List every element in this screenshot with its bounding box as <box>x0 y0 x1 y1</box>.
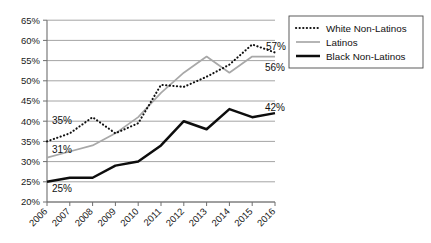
x-tick-label: 2008 <box>72 206 95 229</box>
label-black-end: 42% <box>265 102 285 113</box>
gridlines <box>47 20 275 202</box>
label-white-start: 35% <box>52 115 72 126</box>
x-tick-label: 2009 <box>95 206 118 229</box>
x-tick-label: 2012 <box>163 206 186 229</box>
chart-svg: 65% 60% 55% 50% 45% 40% 35% 30% 25% 20% <box>0 0 431 243</box>
x-tick-label: 2013 <box>186 206 209 229</box>
y-tick-label: 25% <box>21 176 41 187</box>
x-tick-label: 2016 <box>255 206 278 229</box>
y-tick-label: 40% <box>21 116 41 127</box>
x-tickmarks <box>47 202 275 206</box>
label-latinos-start: 31% <box>52 144 72 155</box>
legend-label-white-non-latinos: White Non-Latinos <box>326 23 407 34</box>
y-tick-label: 50% <box>21 75 41 86</box>
series-line-latinos <box>47 57 275 158</box>
x-axis-labels: 2006 2007 2008 2009 2010 2011 2012 2013 … <box>27 206 278 229</box>
y-tick-label: 30% <box>21 156 41 167</box>
legend-label-latinos: Latinos <box>326 37 358 48</box>
x-tick-label: 2006 <box>27 206 50 229</box>
label-latinos-end: 56% <box>265 62 285 73</box>
x-tick-label: 2014 <box>209 206 232 229</box>
legend-label-black-non-latinos: Black Non-Latinos <box>326 51 406 62</box>
x-tick-label: 2007 <box>49 206 72 229</box>
y-tickmarks <box>43 20 47 202</box>
legend: White Non-Latinos Latinos Black Non-Lati… <box>289 16 423 68</box>
y-tick-label: 65% <box>21 15 41 26</box>
line-chart: 65% 60% 55% 50% 45% 40% 35% 30% 25% 20% <box>0 0 431 243</box>
series-line-black-non-latinos <box>47 109 275 182</box>
x-tick-label: 2011 <box>141 206 163 228</box>
y-axis-labels: 65% 60% 55% 50% 45% 40% 35% 30% 25% 20% <box>21 15 41 208</box>
x-tick-label: 2015 <box>232 206 255 229</box>
y-tick-label: 45% <box>21 95 41 106</box>
label-white-end: 57% <box>266 41 286 52</box>
y-tick-label: 20% <box>21 196 41 207</box>
x-tick-label: 2010 <box>118 206 141 229</box>
label-black-start: 25% <box>52 183 72 194</box>
y-tick-label: 55% <box>21 55 41 66</box>
y-tick-label: 60% <box>21 35 41 46</box>
y-tick-label: 35% <box>21 136 41 147</box>
